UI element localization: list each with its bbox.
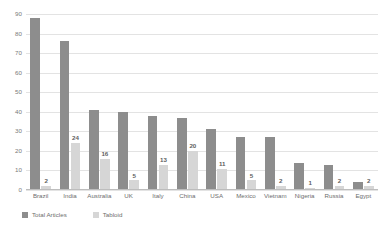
legend-swatch-icon [22,212,28,218]
bar-value-label: 24 [66,135,86,141]
bar-group: 2 [324,14,345,190]
bar-tabloid [159,165,169,190]
y-tick-label: 80 [0,31,22,37]
bar-total-articles [177,118,187,190]
legend-item[interactable]: Total Articles [22,212,67,218]
bar-group: 11 [206,14,227,190]
legend-label: Total Articles [32,212,67,218]
bar-tabloid [188,151,198,190]
bar-group: 2 [265,14,286,190]
bar-value-label: 2 [330,178,350,184]
legend-item[interactable]: Tabloid [93,212,123,218]
bar-group: 16 [89,14,110,190]
bar-group: 13 [148,14,169,190]
bar-total-articles [89,110,99,190]
bar-total-articles [206,129,216,190]
bars-layer: 22416513201152122 [26,14,378,190]
y-tick-label: 70 [0,50,22,56]
x-axis-labels: BrazilIndiaAustraliaUKItalyChinaUSAMexic… [26,193,378,205]
bar-value-label: 2 [271,178,291,184]
bar-group: 1 [294,14,315,190]
bar-value-label: 13 [154,157,174,163]
y-tick-label: 90 [0,11,22,17]
gridline [26,190,378,191]
y-tick-label: 60 [0,70,22,76]
bar-value-label: 2 [36,178,56,184]
bar-value-label: 16 [95,151,115,157]
y-tick-label: 20 [0,148,22,154]
y-tick-label: 30 [0,128,22,134]
bar-value-label: 5 [124,173,144,179]
bar-total-articles [236,137,246,190]
bar-total-articles [324,165,334,190]
bar-total-articles [148,116,158,190]
bar-group: 5 [118,14,139,190]
y-tick-label: 10 [0,167,22,173]
bar-total-articles [30,18,40,190]
y-tick-label: 0 [0,187,22,193]
bar-group: 5 [236,14,257,190]
bar-group: 2 [30,14,51,190]
bar-tabloid [71,143,81,190]
bar-value-label: 2 [359,178,379,184]
y-tick-label: 50 [0,89,22,95]
x-axis-line [26,189,378,190]
y-tick-label: 40 [0,109,22,115]
chart-legend: Total ArticlesTabloid [22,212,122,218]
bar-group: 20 [177,14,198,190]
bar-tabloid [100,159,110,190]
bar-group: 2 [353,14,374,190]
bar-tabloid [217,169,227,191]
bar-total-articles [60,41,70,190]
x-tick-label: Egypt [343,193,383,200]
bar-value-label: 20 [183,143,203,149]
bar-group: 24 [60,14,81,190]
bar-value-label: 5 [242,173,262,179]
bar-value-label: 11 [212,161,232,167]
bar-value-label: 1 [300,180,320,186]
plot-area: 22416513201152122 [26,14,378,190]
bar-chart: 0102030405060708090 22416513201152122 Br… [0,0,391,232]
legend-label: Tabloid [103,212,123,218]
legend-swatch-icon [93,212,99,218]
